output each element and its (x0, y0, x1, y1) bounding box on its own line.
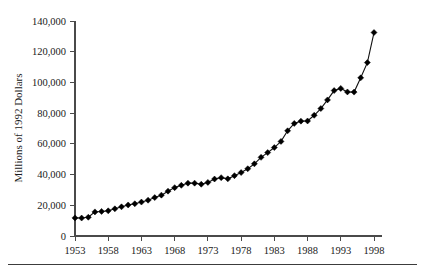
y-axis-title: Millions of 1992 Dollars (12, 73, 24, 182)
data-point-marker (105, 208, 111, 214)
data-point-marker (132, 201, 138, 207)
x-tick-label: 1953 (65, 245, 86, 256)
data-point-marker (119, 204, 125, 210)
data-point-marker (125, 202, 131, 208)
data-series-line (75, 33, 374, 219)
y-tick-label: 80,000 (37, 108, 66, 119)
data-point-marker (371, 30, 377, 36)
y-tick-label: 60,000 (37, 138, 66, 149)
x-tick-label: 1968 (164, 245, 185, 256)
data-point-marker (225, 176, 231, 182)
x-tick-label: 1978 (231, 245, 252, 256)
data-point-marker (298, 118, 304, 124)
data-point-marker (231, 173, 237, 179)
y-tick-label: 20,000 (37, 200, 66, 211)
x-tick-label: 1958 (98, 245, 119, 256)
data-point-marker (178, 182, 184, 188)
data-point-marker (351, 89, 357, 95)
x-tick-label: 1988 (297, 245, 318, 256)
data-point-marker (79, 215, 85, 221)
data-point-marker (99, 208, 105, 214)
data-point-marker (364, 60, 370, 66)
bottom-horizontal-rule (8, 264, 417, 265)
x-tick-label: 1963 (131, 245, 152, 256)
x-axis-tick-labels: 1953195819631968197319781983198819931998 (65, 245, 385, 256)
data-point-marker (145, 197, 151, 203)
data-point-marker (185, 180, 191, 186)
data-point-marker (344, 89, 350, 95)
line-chart-plot: 020,00040,00060,00080,000100,000120,0001… (0, 0, 425, 262)
data-point-marker (158, 192, 164, 198)
y-tick-label: 120,000 (32, 46, 66, 57)
y-tick-label: 100,000 (32, 77, 66, 88)
data-point-marker (152, 195, 158, 201)
data-point-marker (238, 170, 244, 176)
y-axis-tick-labels: 020,00040,00060,00080,000100,000120,0001… (32, 16, 66, 242)
y-tick-label: 40,000 (37, 169, 66, 180)
data-point-marker (218, 175, 224, 181)
data-point-marker (358, 75, 364, 81)
x-tick-label: 1973 (197, 245, 218, 256)
x-tick-label: 1983 (264, 245, 285, 256)
x-tick-label: 1993 (330, 245, 351, 256)
data-point-marker (72, 215, 78, 221)
data-series-markers (72, 30, 377, 222)
chart-figure: 020,00040,00060,00080,000100,000120,0001… (0, 0, 425, 277)
data-point-marker (192, 180, 198, 186)
data-point-marker (138, 199, 144, 205)
data-point-marker (198, 181, 204, 187)
y-axis-tick-marks (70, 21, 75, 236)
x-axis-tick-marks (75, 236, 374, 241)
data-point-marker (338, 85, 344, 91)
data-point-marker (205, 179, 211, 185)
data-point-marker (165, 188, 171, 194)
y-tick-label: 0 (61, 231, 66, 242)
data-point-marker (212, 176, 218, 182)
x-tick-label: 1998 (364, 245, 385, 256)
data-point-marker (112, 206, 118, 212)
y-tick-label: 140,000 (32, 16, 66, 27)
data-point-marker (172, 185, 178, 191)
